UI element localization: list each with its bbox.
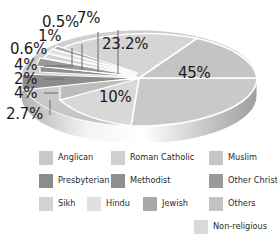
legend-row-4: Non-religious [194,218,267,235]
legend-item-methodist[interactable]: Methodist [111,172,209,189]
legend-item-roman-catholic[interactable]: Roman Catholic [111,149,209,166]
pie-label-10: 10% [99,90,131,105]
pie-label-23-2: 23.2% [102,37,148,52]
legend-swatch-muslim [209,151,223,165]
legend-swatch-hindu [87,197,101,211]
legend-item-anglican[interactable]: Anglican [39,149,111,166]
legend-item-non-religious[interactable]: Non-religious [194,218,267,235]
pie-label-4-lower: 4% [14,86,37,101]
pie-label-2-7: 2.7% [6,107,43,122]
legend-label-presbyterian: Presbyterian [58,176,109,184]
legend-swatch-other-christian [209,174,223,188]
legend-item-sikh[interactable]: Sikh [39,195,87,212]
legend-label-methodist: Methodist [130,176,170,184]
legend-swatch-non-religious [194,220,208,234]
legend-swatch-methodist [111,174,125,188]
legend-row-1: Anglican Roman Catholic Muslim [39,149,257,166]
legend-label-others: Others [228,199,256,207]
legend-swatch-presbyterian [39,174,53,188]
legend-item-jewish[interactable]: Jewish [143,195,209,212]
legend-item-others[interactable]: Others [209,195,256,212]
pie-label-45: 45% [178,66,210,81]
legend-row-2: Presbyterian Methodist Other Christian [39,172,277,189]
legend-swatch-others [209,197,223,211]
legend-label-jewish: Jewish [162,199,188,207]
legend-row-3: Sikh Hindu Jewish Others [39,195,256,212]
pie-chart-figure: 45% 23.2% 10% 7% 0.5% 1% 0.6% 4% 2% 4% 2… [0,0,277,241]
legend-label-roman-catholic: Roman Catholic [130,153,194,161]
legend-swatch-jewish [143,197,157,211]
pie-label-0-6: 0.6% [10,42,47,57]
legend-swatch-anglican [39,151,53,165]
legend-swatch-sikh [39,197,53,211]
legend-item-muslim[interactable]: Muslim [209,149,257,166]
legend-label-anglican: Anglican [58,153,93,161]
pie-label-7: 7% [77,11,100,26]
legend-item-other-christian[interactable]: Other Christian [209,172,277,189]
legend-label-muslim: Muslim [228,153,257,161]
legend-label-sikh: Sikh [58,199,75,207]
legend-item-presbyterian[interactable]: Presbyterian [39,172,111,189]
legend-label-hindu: Hindu [106,199,130,207]
legend-item-hindu[interactable]: Hindu [87,195,143,212]
legend-label-other-christian: Other Christian [228,176,277,184]
chart-legend: Anglican Roman Catholic Muslim Presbyter… [0,142,277,241]
legend-swatch-roman-catholic [111,151,125,165]
legend-label-non-religious: Non-religious [213,222,267,230]
pie-plot-area: 45% 23.2% 10% 7% 0.5% 1% 0.6% 4% 2% 4% 2… [0,0,277,142]
